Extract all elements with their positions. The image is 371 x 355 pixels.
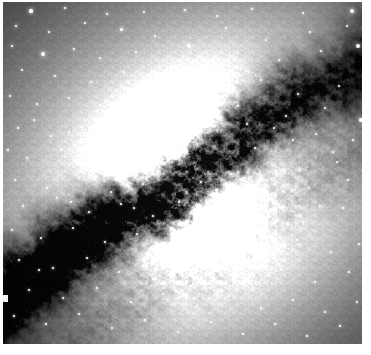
galaxy-image-canvas	[3, 2, 362, 344]
astronomical-image-frame	[3, 2, 362, 344]
image-subject-label: Centaurus A galaxy with central dust lan…	[0, 0, 1, 1]
screenshot-root: Centaurus A galaxy with central dust lan…	[0, 0, 371, 355]
bottom-white-margin	[0, 344, 371, 355]
left-edge-artifact	[3, 295, 8, 302]
